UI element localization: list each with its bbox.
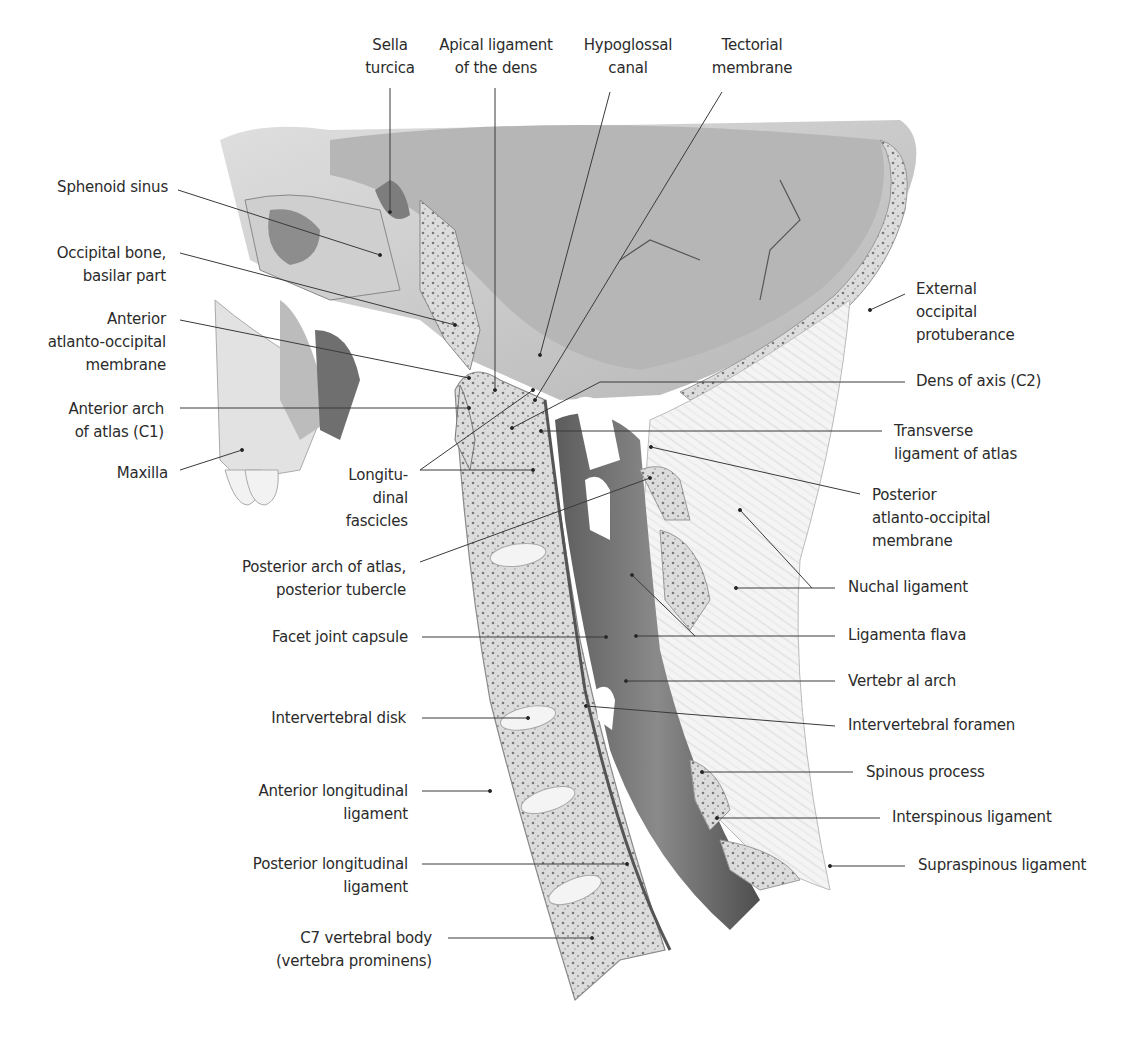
label-ligamenta-flava: Ligamenta flava (848, 624, 1018, 647)
leader-dot-anterior-longitudinal-ligament (488, 789, 491, 792)
leader-dot-nuchal-ligament (734, 586, 737, 589)
label-apical-ligament: Apical ligament of the dens (426, 34, 566, 80)
leader-dot-anterior-atlanto-occipital-membrane (467, 376, 470, 379)
leader-dot-sella-turcica (388, 210, 391, 213)
label-anterior-atlanto-occipital-membrane: Anterior atlanto-occipital membrane (0, 308, 166, 377)
label-facet-joint-capsule: Facet joint capsule (218, 626, 408, 649)
label-tectorial-membrane: Tectorial membrane (697, 34, 807, 80)
leader-dot-sphenoid-sinus (378, 253, 381, 256)
label-intervertebral-disk: Intervertebral disk (216, 707, 406, 730)
label-anterior-arch-atlas: Anterior arch of atlas (C1) (0, 398, 164, 444)
leader-dot-apical-ligament (493, 388, 496, 391)
label-occipital-bone: Occipital bone, basilar part (0, 242, 166, 288)
leader-dot-posterior-arch-atlas (648, 476, 651, 479)
leader-dot-nuchal-ligament (738, 508, 741, 511)
leader-dot-longitudinal-fascicles (531, 388, 534, 391)
leader-dot-c7-vertebral-body (590, 936, 593, 939)
leader-dot-interspinous-ligament (715, 816, 718, 819)
label-nuchal-ligament: Nuchal ligament (848, 576, 1018, 599)
label-intervertebral-foramen: Intervertebral foramen (848, 714, 1048, 737)
anatomy-figure: Sella turcicaApical ligament of the dens… (0, 0, 1124, 1042)
label-maxilla: Maxilla (0, 462, 168, 485)
leader-dot-maxilla (240, 448, 243, 451)
leader-dot-dens-of-axis (510, 426, 513, 429)
label-dens-of-axis: Dens of axis (C2) (916, 370, 1076, 393)
label-spinous-process: Spinous process (866, 761, 1036, 784)
label-interspinous-ligament: Interspinous ligament (892, 806, 1092, 829)
label-anterior-longitudinal-ligament: Anterior longitudinal ligament (218, 780, 408, 826)
leader-dot-vertebral-arch (624, 679, 627, 682)
leader-dot-intervertebral-foramen (584, 704, 587, 707)
leader-dot-spinous-process (700, 770, 703, 773)
leader-dot-supraspinous-ligament (828, 864, 831, 867)
label-sella-turcica: Sella turcica (350, 34, 430, 80)
leader-dot-posterior-atlanto-occipital-membrane (649, 445, 652, 448)
leader-dot-hypoglossal-canal (538, 353, 541, 356)
label-vertebral-arch: Vertebr al arch (848, 670, 1018, 693)
label-supraspinous-ligament: Supraspinous ligament (918, 854, 1118, 877)
leader-line-external-occipital-protuberance (870, 294, 905, 310)
leader-dot-external-occipital-protuberance (868, 308, 871, 311)
leader-dot-intervertebral-disk (526, 716, 529, 719)
label-posterior-longitudinal-ligament: Posterior longitudinal ligament (218, 853, 408, 899)
leader-dot-posterior-longitudinal-ligament (625, 862, 628, 865)
leader-dot-ligamenta-flava (630, 573, 633, 576)
leader-dot-facet-joint-capsule (604, 635, 607, 638)
label-c7-vertebral-body: C7 vertebral body (vertebra prominens) (232, 927, 432, 973)
leader-dot-transverse-ligament (539, 429, 542, 432)
leader-dot-tectorial-membrane (533, 398, 536, 401)
leader-dot-occipital-bone (453, 323, 456, 326)
leader-dot-longitudinal-fascicles (531, 468, 534, 471)
label-posterior-atlanto-occipital-membrane: Posterior atlanto-occipital membrane (872, 484, 1052, 553)
label-posterior-arch-atlas: Posterior arch of atlas, posterior tuber… (206, 556, 406, 602)
label-hypoglossal-canal: Hypoglossal canal (573, 34, 683, 80)
label-transverse-ligament: Transverse ligament of atlas (894, 420, 1054, 466)
leader-dot-ligamenta-flava (634, 634, 637, 637)
label-longitudinal-fascicles: Longitu- dinal fascicles (318, 464, 408, 533)
leader-dot-anterior-arch-atlas (467, 406, 470, 409)
label-sphenoid-sinus: Sphenoid sinus (0, 176, 168, 199)
label-external-occipital-protuberance: External occipital protuberance (916, 278, 1066, 347)
